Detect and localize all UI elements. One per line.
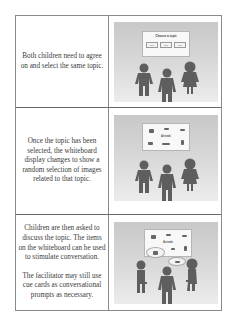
description-text: Both children need to agree on and selec…: [18, 52, 106, 71]
facilitator-figure-icon: [157, 68, 177, 102]
child-figure-icon: [180, 158, 200, 192]
classroom-scene-choose-topic: Choose a topic topic topic topic: [114, 22, 218, 102]
description-text: The facilitator may still use cue cards …: [18, 272, 106, 301]
animal-image-icon: [164, 128, 169, 130]
animal-image-icon: [162, 143, 170, 145]
facilitator-figure-icon: [157, 164, 177, 201]
illustration-cell: Animals: [109, 215, 221, 310]
child-figure-icon: [180, 61, 200, 95]
animal-image-icon: [151, 235, 156, 239]
speech-bubble: [146, 247, 165, 258]
description-text: Children are then asked to discuss the t…: [18, 224, 106, 262]
animal-image-icon: [153, 251, 158, 255]
topic-button: topic: [146, 42, 158, 48]
table-row: Children are then asked to discuss the t…: [16, 214, 221, 310]
description-cell: Both children need to agree on and selec…: [16, 16, 109, 107]
animal-image-icon: [148, 142, 153, 145]
child-figure-icon: [134, 160, 154, 194]
animal-image-icon: [182, 235, 187, 237]
animal-image-icon: [171, 248, 175, 250]
illustration-cell: Animals: [109, 108, 221, 214]
animal-image-icon: [184, 246, 187, 251]
description-cell: Children are then asked to discuss the t…: [16, 215, 109, 310]
topic-button: topic: [174, 42, 186, 48]
illustration-cell: Choose a topic topic topic topic: [109, 16, 221, 107]
whiteboard: Animals: [142, 123, 190, 151]
animal-image-icon: [175, 261, 180, 263]
facilitator-figure-icon: [157, 266, 177, 304]
table-row: Once the topic has been selected, the wh…: [16, 107, 221, 214]
classroom-scene-topic-images: Animals: [114, 115, 218, 201]
description-cell: Once the topic has been selected, the wh…: [16, 108, 109, 214]
child-figure-icon: [134, 63, 154, 97]
storyboard-table: Both children need to agree on and selec…: [15, 15, 222, 311]
topic-button: topic: [160, 42, 172, 48]
topic-label: Animals: [145, 241, 191, 244]
description-text: Once the topic has been selected, the wh…: [18, 137, 106, 185]
animal-image-icon: [181, 140, 184, 145]
animal-image-icon: [166, 234, 171, 236]
topic-label: Animals: [143, 135, 189, 138]
topic-buttons: topic topic topic: [146, 42, 186, 48]
classroom-scene-discussion: Animals: [114, 222, 218, 304]
animal-image-icon: [180, 129, 185, 131]
animal-image-icon: [149, 129, 154, 133]
child-figure-side-icon: [185, 258, 199, 292]
table-row: Both children need to agree on and selec…: [16, 16, 221, 107]
whiteboard: Choose a topic topic topic topic: [142, 31, 190, 57]
child-figure-side-icon: [134, 260, 148, 294]
whiteboard-title: Choose a topic: [143, 35, 189, 38]
speech-bubble: [168, 257, 186, 266]
